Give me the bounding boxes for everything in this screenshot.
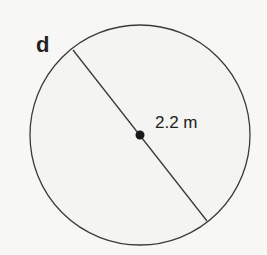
measurement-label: 2.2 m [155,113,198,132]
part-label: d [36,32,49,57]
circle-diagram: d 2.2 m [0,0,267,255]
center-point [136,131,145,140]
